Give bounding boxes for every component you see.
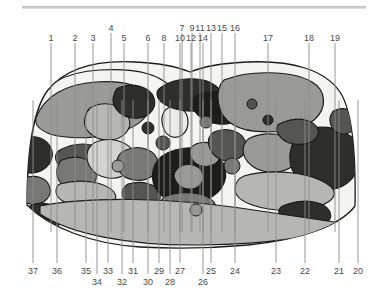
label-31[interactable]: 31: [128, 267, 138, 276]
label-3[interactable]: 3: [90, 34, 95, 43]
label-23[interactable]: 23: [271, 267, 281, 276]
label-20[interactable]: 20: [353, 267, 363, 276]
label-12[interactable]: 12: [186, 34, 196, 43]
label-6[interactable]: 6: [145, 34, 150, 43]
label-16[interactable]: 16: [230, 24, 240, 33]
label-10[interactable]: 10: [175, 34, 185, 43]
label-13[interactable]: 13: [206, 24, 216, 33]
nodule-d: [200, 116, 212, 128]
label-29[interactable]: 29: [154, 267, 164, 276]
region-spinal-canal: [174, 165, 203, 190]
region-left-lateral-muscle: [18, 176, 51, 204]
label-17[interactable]: 17: [263, 34, 273, 43]
label-9[interactable]: 9: [189, 24, 194, 33]
region-trachea-lumen: [162, 107, 188, 137]
label-26[interactable]: 26: [198, 278, 208, 287]
label-25[interactable]: 25: [206, 267, 216, 276]
label-18[interactable]: 18: [304, 34, 314, 43]
label-35[interactable]: 35: [81, 267, 91, 276]
label-24[interactable]: 24: [230, 267, 240, 276]
label-4[interactable]: 4: [108, 24, 113, 33]
label-28[interactable]: 28: [165, 278, 175, 287]
label-11[interactable]: 11: [195, 24, 204, 33]
cross-section-figure: [0, 0, 380, 296]
label-34[interactable]: 34: [92, 278, 102, 287]
label-37[interactable]: 37: [28, 267, 38, 276]
label-1[interactable]: 1: [48, 34, 53, 43]
label-15[interactable]: 15: [217, 24, 227, 33]
label-7[interactable]: 7: [179, 24, 184, 33]
label-32[interactable]: 32: [117, 278, 127, 287]
label-30[interactable]: 30: [143, 278, 153, 287]
label-8[interactable]: 8: [161, 34, 166, 43]
nodule-b: [224, 158, 240, 174]
label-14[interactable]: 14: [198, 34, 208, 43]
label-19[interactable]: 19: [330, 34, 340, 43]
figure-stage: 1234567891011121314151617181920212223242…: [0, 0, 380, 296]
nodule-a: [156, 136, 170, 150]
label-21[interactable]: 21: [334, 267, 344, 276]
label-22[interactable]: 22: [300, 267, 310, 276]
label-5[interactable]: 5: [121, 34, 126, 43]
label-36[interactable]: 36: [52, 267, 62, 276]
nodule-e: [247, 99, 257, 109]
label-27[interactable]: 27: [175, 267, 185, 276]
label-2[interactable]: 2: [72, 34, 77, 43]
label-33[interactable]: 33: [103, 267, 113, 276]
